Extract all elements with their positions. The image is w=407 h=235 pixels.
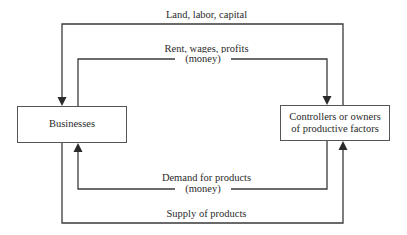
- arrow-up-icon: [339, 141, 348, 150]
- flow-land-labor-capital: [58, 24, 344, 106]
- arrow-down-icon: [58, 97, 67, 106]
- flow-label-land-labor-capital: Land, labor, capital: [150, 9, 263, 21]
- flow-label-supply-of-products: Supply of products: [150, 208, 263, 220]
- node-label-line1: Controllers or owners: [289, 111, 381, 124]
- circular-flow-diagram: Businesses Controllers or owners of prod…: [0, 0, 407, 235]
- arrow-down-icon: [323, 96, 332, 105]
- node-label: Businesses: [49, 118, 95, 131]
- flow-sublabel-money-bottom: (money): [175, 183, 231, 195]
- flow-rent-wages-profits: [78, 59, 332, 106]
- node-label-line2: of productive factors: [291, 123, 378, 136]
- arrow-up-icon: [74, 143, 83, 152]
- node-owners-of-productive-factors: Controllers or owners of productive fact…: [280, 105, 390, 141]
- node-businesses: Businesses: [17, 106, 127, 143]
- flow-sublabel-money-top: (money): [175, 53, 231, 65]
